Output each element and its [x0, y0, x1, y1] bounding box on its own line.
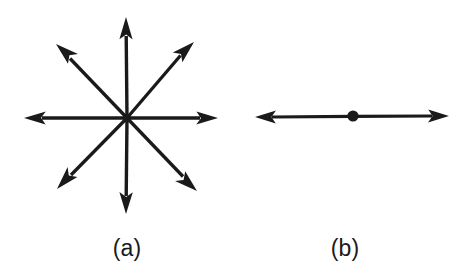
arrow-left: [255, 111, 353, 124]
figure-canvas: (a) (b): [0, 0, 473, 273]
arrow-right: [353, 110, 449, 123]
panel-a-diagram: [24, 17, 218, 214]
arrow-down-right: [127, 118, 197, 191]
panel-b-midpoint-dot: [347, 110, 358, 121]
figure-drawing: [0, 0, 473, 273]
panel-b-caption: (b): [331, 235, 360, 262]
arrow-up-right: [127, 42, 194, 118]
panel-a-center-hub: [123, 114, 131, 122]
panel-a-caption: (a): [113, 235, 142, 262]
arrow-down: [119, 118, 132, 214]
arrow-down-left: [57, 118, 127, 189]
arrow-up: [119, 17, 132, 118]
arrow-left: [24, 111, 127, 124]
panel-b-diagram: [255, 110, 449, 124]
arrow-right: [127, 111, 218, 124]
arrow-up-left: [56, 44, 127, 118]
